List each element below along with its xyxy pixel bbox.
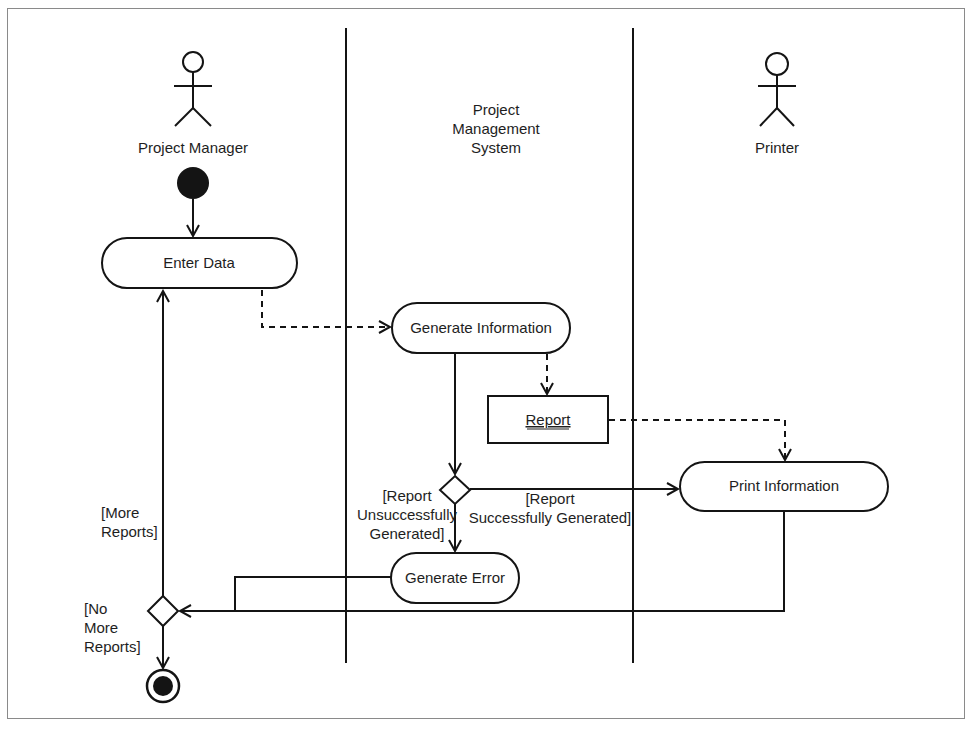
svg-text:Report: Report	[525, 411, 571, 428]
svg-text:Successfully Generated]: Successfully Generated]	[469, 509, 632, 526]
svg-text:System: System	[471, 139, 521, 156]
decision-more-reports	[148, 596, 178, 626]
final-node	[147, 670, 179, 702]
activity-diagram: Project Manager Project Management Syste…	[0, 0, 971, 729]
svg-text:Generate Information: Generate Information	[410, 319, 552, 336]
decision-report-generated	[440, 476, 470, 504]
object-report: Report	[488, 396, 608, 443]
svg-text:[More: [More	[101, 504, 139, 521]
stick-figure-icon	[174, 52, 212, 126]
svg-text:Enter Data: Enter Data	[163, 254, 235, 271]
guard-unsuccessfully-generated: [Report Unsuccessfully Generated]	[357, 487, 458, 542]
svg-text:[Report: [Report	[525, 490, 575, 507]
guard-successfully-generated: [Report Successfully Generated]	[469, 490, 632, 526]
initial-node	[177, 167, 209, 199]
svg-text:Management: Management	[452, 120, 540, 137]
guard-no-more-reports: [No More Reports]	[84, 600, 141, 655]
action-generate-error: Generate Error	[391, 553, 519, 603]
swimlane-label-project-manager: Project Manager	[138, 139, 248, 156]
svg-text:Generated]: Generated]	[369, 525, 444, 542]
svg-text:[No: [No	[84, 600, 107, 617]
svg-text:Reports]: Reports]	[101, 523, 158, 540]
action-enter-data: Enter Data	[102, 238, 297, 288]
swimlane-label-project-management-system: Project Management System	[452, 101, 540, 156]
action-print-information: Print Information	[680, 462, 888, 511]
swimlane-label-printer: Printer	[755, 139, 799, 156]
stick-figure-icon	[758, 53, 796, 126]
svg-text:Reports]: Reports]	[84, 638, 141, 655]
guard-more-reports: [More Reports]	[101, 504, 158, 540]
action-generate-information: Generate Information	[392, 303, 570, 353]
svg-text:Unsuccessfully: Unsuccessfully	[357, 506, 458, 523]
svg-text:Print Information: Print Information	[729, 477, 839, 494]
svg-text:Generate Error: Generate Error	[405, 569, 505, 586]
svg-text:More: More	[84, 619, 118, 636]
svg-text:Project: Project	[473, 101, 521, 118]
svg-text:[Report: [Report	[382, 487, 432, 504]
